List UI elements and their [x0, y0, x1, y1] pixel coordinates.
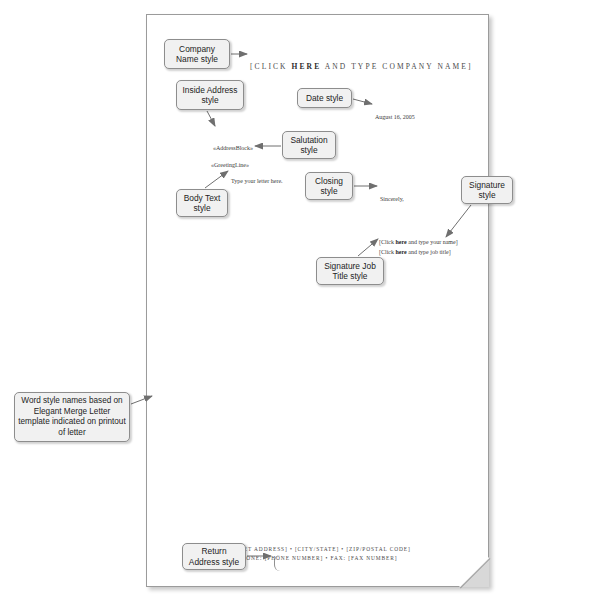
- label-return-address-style[interactable]: Return Address style: [182, 543, 246, 570]
- letter-address-block-field: «AddressBlock»: [213, 145, 253, 151]
- label-closing-style[interactable]: Closing style: [305, 172, 353, 200]
- label-body-text-style[interactable]: Body Text style: [176, 189, 228, 217]
- letter-company-name-line: [CLICK HERE AND TYPE COMPANY NAME]: [250, 62, 473, 71]
- label-signature-job-title-style[interactable]: Signature Job Title style: [316, 257, 384, 285]
- label-salutation-style[interactable]: Salutation style: [282, 131, 336, 159]
- label-date-style[interactable]: Date style: [297, 88, 352, 108]
- letter-closing: Sincerely,: [380, 196, 404, 202]
- letter-greeting-line-field: «GreetingLine»: [211, 162, 249, 168]
- letter-date: August 16, 2005: [375, 114, 415, 120]
- figure-canvas: [CLICK HERE AND TYPE COMPANY NAME] Augus…: [0, 0, 592, 609]
- letter-body-text: Type your letter here.: [231, 178, 283, 184]
- label-explanatory-note[interactable]: Word style names based on Elegant Merge …: [14, 392, 130, 442]
- letter-signature-job-title: [Click here and type job title]: [379, 249, 451, 255]
- letter-signature-name: [Click here and type your name]: [379, 239, 458, 245]
- label-signature-style[interactable]: Signature style: [461, 176, 513, 204]
- label-company-name-style[interactable]: Company Name style: [164, 39, 230, 69]
- label-inside-address-style[interactable]: Inside Address style: [176, 80, 244, 110]
